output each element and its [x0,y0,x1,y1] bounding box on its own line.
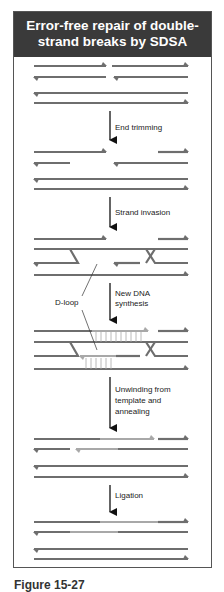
figure-caption: Figure 15-27 [14,578,85,592]
stage-strand-invasion [34,239,188,275]
label-unwinding-line2: template and [115,396,161,405]
label-new-dna-line2: synthesis [115,299,148,308]
label-unwinding-line3: annealing [115,407,150,416]
stage-annealing [34,439,188,477]
label-new-dna-line1: New DNA [115,289,151,298]
label-dloop: D-loop [55,298,79,307]
dloop-pointer [82,264,97,350]
stage-new-dna-synthesis [34,331,188,369]
label-end-trimming: End trimming [115,123,162,132]
label-ligation: Ligation [115,491,143,500]
label-strand-invasion: Strand invasion [115,208,170,217]
stage-end-trimming [34,152,188,189]
stage-ligation [34,522,188,559]
stage-broken-dna [34,66,188,103]
label-unwinding-line1: Unwinding from [115,385,171,394]
